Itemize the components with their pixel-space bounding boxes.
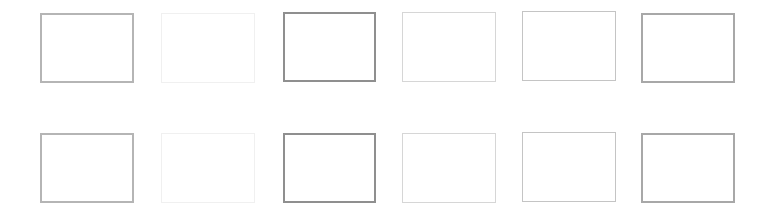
empty-box-r2-c1 [40, 133, 134, 203]
empty-box-r1-c4 [402, 12, 496, 82]
empty-box-r2-c6 [641, 133, 735, 203]
empty-box-r1-c6 [641, 13, 735, 83]
empty-box-r1-c5 [522, 11, 616, 81]
empty-box-r1-c1 [40, 13, 134, 83]
empty-box-r2-c3 [283, 133, 376, 203]
empty-box-r1-c3 [283, 12, 376, 82]
empty-box-r2-c4 [402, 133, 496, 203]
empty-box-r2-c2 [161, 133, 255, 203]
empty-box-r2-c5 [522, 132, 616, 202]
empty-box-r1-c2 [161, 13, 255, 83]
